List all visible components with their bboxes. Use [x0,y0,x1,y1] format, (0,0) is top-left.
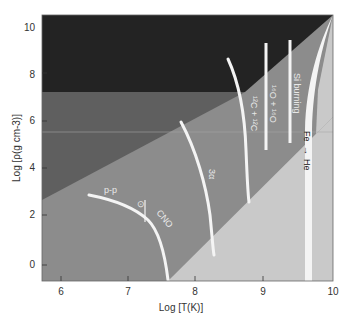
x-tick-6: 6 [58,286,64,297]
x-axis-title: Log [T(K)] [159,302,204,313]
label-sun: ⊙ [137,199,145,209]
label-he: He [302,159,312,171]
y-tick-0: 0 [29,259,35,270]
label-carbon: ¹²C + ¹²C [249,96,259,132]
label-arrow: → [302,146,312,155]
label-pp: p-p [104,185,117,195]
x-tick-7: 7 [125,286,131,297]
y-tick-8: 8 [29,69,35,80]
x-tick-9: 9 [260,286,266,297]
label-fe: Fe [302,131,312,142]
plot-area: p-p ⊙ CNO 3α ¹²C + ¹²C ¹⁶O + ¹⁶O Si burn… [42,15,333,281]
y-tick-10: 10 [24,22,36,33]
y-tick-4: 4 [29,162,35,173]
y-axis-title: Log [ρ(g cm-3)] [11,114,22,182]
label-silicon: Si burning [292,73,302,114]
y-tick-2: 2 [29,209,35,220]
x-tick-8: 8 [192,286,198,297]
y-tick-6: 6 [29,115,35,126]
label-oxygen: ¹⁶O + ¹⁶O [268,85,278,123]
x-tick-10: 10 [327,286,339,297]
label-triple-alpha: 3α [207,169,217,179]
density-temperature-chart: p-p ⊙ CNO 3α ¹²C + ¹²C ¹⁶O + ¹⁶O Si burn… [0,0,350,324]
